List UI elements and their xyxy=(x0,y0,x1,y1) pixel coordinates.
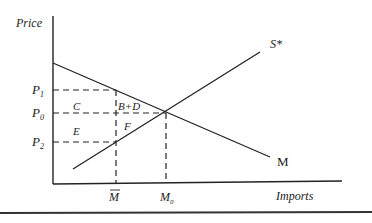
supply-curve xyxy=(73,52,260,169)
m-bar-label: M xyxy=(108,190,120,204)
x-axis-label: Imports xyxy=(275,189,314,203)
import-quota-diagram: Price Imports S* M P1 P0 P2 M M0 C B+D E… xyxy=(0,0,372,223)
y-axis-label: Price xyxy=(15,16,43,30)
demand-curve-label: M xyxy=(277,154,289,169)
p0-label: P0 xyxy=(31,105,44,122)
supply-curve-label: S* xyxy=(270,37,282,51)
m0-label: M0 xyxy=(159,190,174,206)
area-f-label: F xyxy=(123,120,131,132)
area-bd-label: B+D xyxy=(118,100,140,112)
area-e-label: E xyxy=(72,125,80,137)
import-demand-curve xyxy=(53,63,270,157)
p2-label: P2 xyxy=(31,134,44,151)
bottom-rule xyxy=(0,212,372,213)
x-axis xyxy=(53,181,342,184)
p1-label: P1 xyxy=(31,82,44,99)
area-c-label: C xyxy=(73,100,81,112)
